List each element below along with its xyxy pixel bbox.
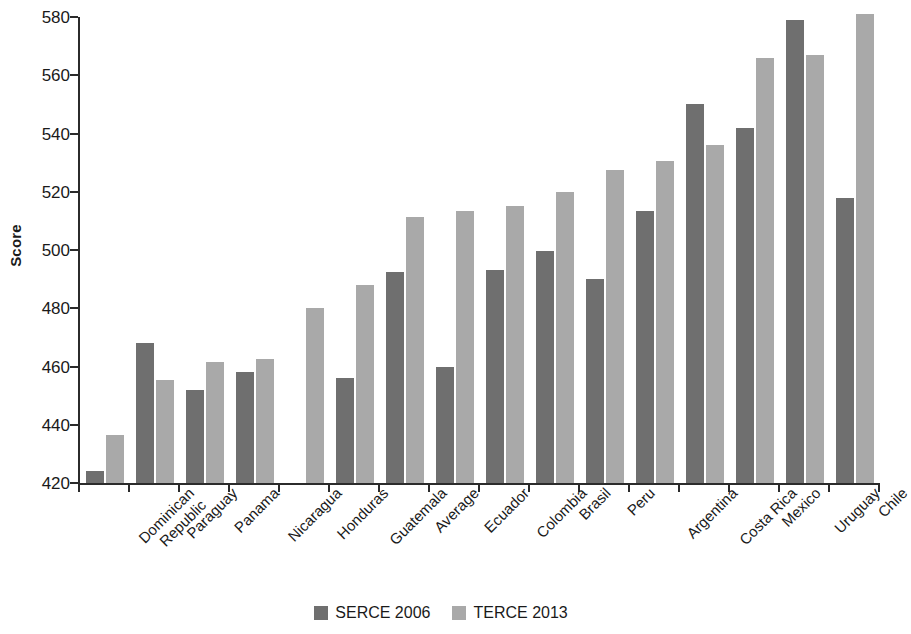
y-axis-tick-label: 420 bbox=[0, 475, 70, 492]
bar bbox=[686, 104, 704, 483]
legend-swatch-icon bbox=[452, 606, 466, 620]
y-axis-tick-mark bbox=[70, 133, 78, 135]
bar bbox=[136, 343, 154, 483]
bar bbox=[606, 170, 624, 483]
y-axis-tick-mark bbox=[70, 482, 78, 484]
bar bbox=[556, 192, 574, 483]
bar bbox=[856, 14, 874, 483]
x-axis-category-label: Peru bbox=[624, 485, 658, 519]
y-axis-tick-label: 460 bbox=[0, 358, 70, 375]
x-axis-category-label: Panama bbox=[231, 485, 282, 536]
bar bbox=[356, 285, 374, 483]
y-axis-tick-mark bbox=[70, 249, 78, 251]
x-axis-category-label: Uruguay bbox=[832, 485, 884, 537]
bar bbox=[806, 55, 824, 483]
y-axis-tick-mark bbox=[70, 307, 78, 309]
bar bbox=[436, 367, 454, 484]
y-axis-tick-label: 480 bbox=[0, 300, 70, 317]
y-axis-tick-label: 540 bbox=[0, 125, 70, 142]
y-axis-tick-label: 580 bbox=[0, 9, 70, 26]
legend-item[interactable]: TERCE 2013 bbox=[452, 604, 567, 622]
bar bbox=[236, 372, 254, 483]
legend-label: SERCE 2006 bbox=[335, 604, 430, 622]
bar bbox=[836, 198, 854, 483]
bar bbox=[206, 362, 224, 483]
bar bbox=[636, 211, 654, 483]
bar bbox=[586, 279, 604, 483]
bar bbox=[536, 251, 554, 483]
y-axis-tick-label: 560 bbox=[0, 67, 70, 84]
chart-legend: SERCE 2006TERCE 2013 bbox=[0, 604, 882, 622]
bar bbox=[786, 20, 804, 483]
y-axis-tick-label: 440 bbox=[0, 416, 70, 433]
bar bbox=[456, 211, 474, 483]
bar bbox=[386, 272, 404, 483]
y-axis-tick-mark bbox=[70, 16, 78, 18]
bar bbox=[256, 359, 274, 483]
bar bbox=[336, 378, 354, 483]
y-axis-tick-mark bbox=[70, 74, 78, 76]
bar bbox=[106, 435, 124, 483]
plot-area: 420440460480500520540560580 bbox=[78, 17, 878, 483]
y-axis-tick-mark bbox=[70, 191, 78, 193]
y-axis-tick-mark bbox=[70, 366, 78, 368]
y-axis-tick-label: 520 bbox=[0, 183, 70, 200]
y-axis-tick-mark bbox=[70, 424, 78, 426]
x-axis-category-label: Ecuador bbox=[481, 485, 532, 536]
legend-label: TERCE 2013 bbox=[473, 604, 567, 622]
bar bbox=[186, 390, 204, 483]
bar bbox=[406, 217, 424, 483]
x-axis-labels: Dominican RepublicParaguayPanamaNicaragu… bbox=[78, 485, 878, 595]
bar bbox=[486, 270, 504, 483]
bars-layer bbox=[80, 17, 878, 483]
x-axis-category-label: Chile bbox=[875, 485, 911, 521]
legend-item[interactable]: SERCE 2006 bbox=[314, 604, 430, 622]
bar bbox=[736, 128, 754, 483]
bar bbox=[756, 58, 774, 483]
bar bbox=[156, 380, 174, 483]
bar bbox=[656, 161, 674, 483]
bar bbox=[506, 206, 524, 483]
y-axis-tick-label: 500 bbox=[0, 242, 70, 259]
x-axis-category-label: Nicaragua bbox=[285, 485, 345, 545]
bar bbox=[706, 145, 724, 483]
legend-swatch-icon bbox=[314, 606, 328, 620]
x-axis-category-label: Argentina bbox=[684, 485, 741, 542]
bar bbox=[306, 308, 324, 483]
bar bbox=[86, 471, 104, 483]
